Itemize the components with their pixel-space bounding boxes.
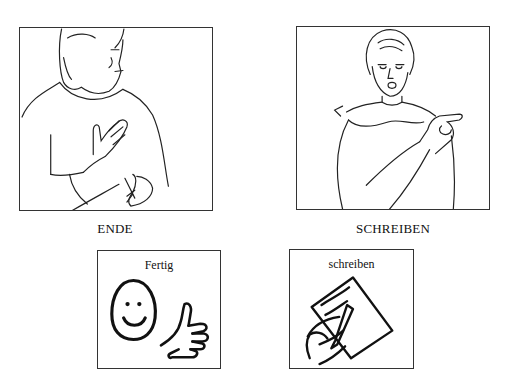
sign-illustration-ende bbox=[19, 27, 213, 211]
woman-signing-icon bbox=[20, 28, 212, 210]
hand-writing-on-paper-icon bbox=[290, 250, 413, 368]
thumbs-up-icon bbox=[161, 304, 208, 358]
man-signing-icon bbox=[297, 27, 489, 209]
sign-illustration-schreiben bbox=[296, 26, 490, 210]
symbol-card-schreiben: schreiben bbox=[289, 249, 414, 369]
symbol-card-fertig: Fertig bbox=[97, 250, 221, 369]
sign-caption-ende: ENDE bbox=[75, 221, 155, 237]
smiley-face-icon bbox=[112, 280, 156, 339]
sign-caption-schreiben: SCHREIBEN bbox=[343, 221, 443, 237]
